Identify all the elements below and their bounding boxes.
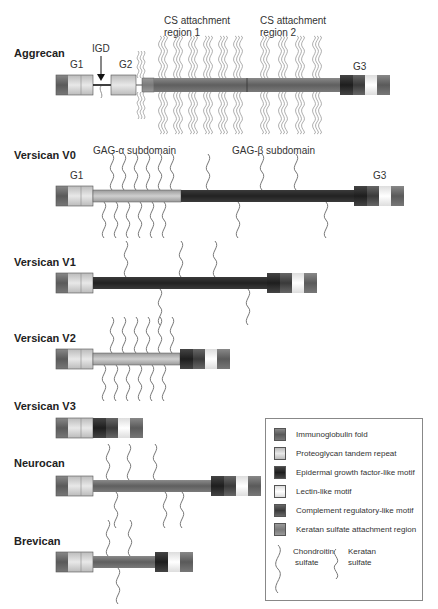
legend-label: Immunoglobulin fold xyxy=(296,430,368,439)
versican-v2-diagram: Versican V2 xyxy=(14,317,230,401)
cs-region1-label: CS attachment xyxy=(164,15,230,26)
brevican-diagram: Brevican xyxy=(14,520,193,604)
aggrecan-label: Aggrecan xyxy=(14,47,65,59)
legend-item-complement-motif: Complement regulatory-like motif xyxy=(274,503,413,517)
keratan-label: Keratan xyxy=(348,547,376,557)
legend: Immunoglobulin fold Proteoglycan tandem … xyxy=(265,418,423,601)
complement-swatch-icon xyxy=(274,504,286,517)
chondroitin-sulfate-icon xyxy=(276,545,281,593)
v0-g1-label: G1 xyxy=(70,170,84,181)
g2-label: G2 xyxy=(119,59,133,70)
gag-alpha-label: GAG-α subdomain xyxy=(93,145,176,156)
legend-item-tandem-repeat: Proteoglycan tandem repeat xyxy=(274,446,397,460)
cs-region1-label-2: region 1 xyxy=(164,27,201,38)
versican-v1-label: Versican V1 xyxy=(14,256,76,268)
brevican-label: Brevican xyxy=(14,535,61,547)
legend-label: Lectin-like motif xyxy=(296,487,352,496)
gag-beta-label: GAG-β subdomain xyxy=(232,145,315,156)
versican-v3-diagram: Versican V3 xyxy=(14,400,143,438)
keratan-region-swatch-icon xyxy=(274,523,286,536)
legend-label: Complement regulatory-like motif xyxy=(296,506,413,515)
igd-arrow-icon xyxy=(97,74,105,81)
keratan-label-2: sulfate xyxy=(348,558,372,568)
chondroitin-label: Chondroitin xyxy=(293,547,334,557)
chondroitin-label-2: sulfate xyxy=(295,558,319,568)
cs-region2-label: CS attachment xyxy=(260,15,326,26)
versican-v1-diagram: Versican V1 xyxy=(14,241,317,325)
neurocan-diagram: Neurocan xyxy=(14,444,261,528)
immunoglobulin-fold-swatch-icon xyxy=(274,428,286,441)
legend-item-egf-motif: Epidermal growth factor-like motif xyxy=(274,465,415,479)
v0-g3-label: G3 xyxy=(373,170,387,181)
legend-item-keratan-region: Keratan sulfate attachment region xyxy=(274,522,416,536)
versican-v3-label: Versican V3 xyxy=(14,400,76,412)
tandem-repeat-swatch-icon xyxy=(274,447,286,460)
versican-v0-diagram: Versican V0 GAG-α subdomain GAG-β subdom… xyxy=(14,145,404,238)
lectin-swatch-icon xyxy=(274,485,286,498)
legend-label: Keratan sulfate attachment region xyxy=(296,525,416,534)
egf-swatch-icon xyxy=(274,466,286,479)
legend-label: Proteoglycan tandem repeat xyxy=(296,449,397,458)
igd-label: IGD xyxy=(92,43,110,54)
g3-label: G3 xyxy=(353,61,367,72)
legend-item-lectin-motif: Lectin-like motif xyxy=(274,484,352,498)
legend-chain-icons xyxy=(266,541,424,609)
keratan-sulfate-icon xyxy=(334,549,337,579)
versican-v0-label: Versican V0 xyxy=(14,149,76,161)
legend-label: Epidermal growth factor-like motif xyxy=(296,468,415,477)
g1-label: G1 xyxy=(70,59,84,70)
neurocan-label: Neurocan xyxy=(14,457,65,469)
legend-item-immunoglobulin-fold: Immunoglobulin fold xyxy=(274,427,368,441)
versican-v2-label: Versican V2 xyxy=(14,332,76,344)
aggrecan-diagram: Aggrecan G1 IGD G2 CS attachment region … xyxy=(0,0,390,98)
